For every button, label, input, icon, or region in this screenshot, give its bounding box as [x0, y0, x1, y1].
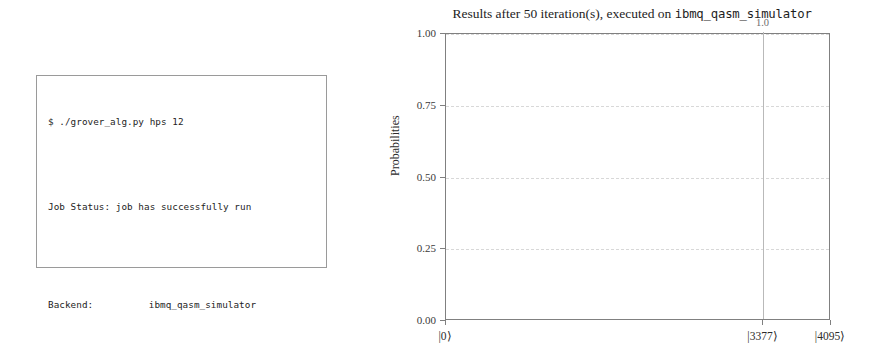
x-tick-mark [830, 320, 831, 325]
chart-title-prefix: Results after 50 iteration(s), executed … [452, 6, 674, 21]
x-tick-mark [445, 320, 446, 325]
y-tick-mark [440, 105, 445, 106]
plot-area [445, 33, 830, 320]
y-tick-label: 0.50 [417, 171, 436, 183]
bar-layer [446, 34, 829, 319]
terminal-field-value: ibmq_qasm_simulator [149, 299, 256, 310]
results-bar-chart: Results after 50 iteration(s), executed … [382, 0, 882, 357]
terminal-job-status-line: Job Status: job has successfully run [48, 200, 316, 214]
y-axis-label: Probabilities [388, 115, 403, 176]
terminal-spacer [48, 242, 316, 256]
y-tick-mark [440, 177, 445, 178]
terminal-output-panel: $ ./grover_alg.py hps 12 Job Status: job… [36, 75, 327, 268]
terminal-command-line: $ ./grover_alg.py hps 12 [48, 115, 316, 129]
x-tick-label: |4095⟩ [815, 329, 845, 343]
terminal-spacer [48, 157, 316, 171]
data-bar [763, 32, 764, 319]
bar-value-label: 1.0 [756, 17, 769, 28]
chart-title: Results after 50 iteration(s), executed … [382, 6, 882, 22]
y-tick-label: 0.25 [417, 242, 436, 254]
x-tick-label: |3377⟩ [747, 329, 777, 343]
terminal-field-key: Backend: [48, 298, 149, 312]
x-tick-mark [762, 320, 763, 325]
y-tick-label: 0.00 [417, 314, 436, 326]
chart-title-backend: ibmq_qasm_simulator [675, 7, 812, 21]
y-tick-mark [440, 33, 445, 34]
y-tick-mark [440, 248, 445, 249]
terminal-field-row: Backend:ibmq_qasm_simulator [48, 298, 316, 312]
x-tick-label: |0⟩ [438, 329, 451, 343]
y-tick-label: 0.75 [417, 99, 436, 111]
terminal-output-text: $ ./grover_alg.py hps 12 Job Status: job… [48, 87, 316, 357]
y-tick-label: 1.00 [417, 27, 436, 39]
